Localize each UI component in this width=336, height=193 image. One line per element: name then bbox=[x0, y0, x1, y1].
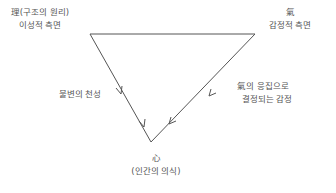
node-top-right: 氣 감정적 측면 bbox=[262, 6, 318, 32]
node-top-left-title: 理(구조의 원리) bbox=[8, 6, 72, 19]
node-top-right-subtitle: 감정적 측면 bbox=[262, 19, 318, 32]
node-bottom: 心 (인간의 의식) bbox=[126, 152, 186, 178]
edge-left-label: 불변의 천성 bbox=[52, 88, 108, 101]
edge-right-label: 氣의 응집으로 결정되는 감정 bbox=[228, 80, 298, 106]
node-bottom-title: 心 bbox=[126, 152, 186, 165]
right-arrowhead-2 bbox=[169, 117, 176, 124]
node-bottom-subtitle: (인간의 의식) bbox=[126, 165, 186, 178]
node-top-right-title: 氣 bbox=[262, 6, 318, 19]
right-arrowhead-1 bbox=[209, 89, 216, 96]
node-top-left-subtitle: 이성적 측면 bbox=[8, 19, 72, 32]
left-arrowhead-1 bbox=[116, 86, 122, 94]
node-top-left: 理(구조의 원리) 이성적 측면 bbox=[8, 6, 72, 32]
